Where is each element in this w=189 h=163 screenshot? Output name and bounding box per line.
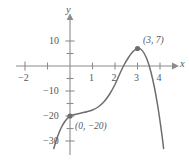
x-axis-label: x	[180, 59, 185, 70]
intercept-point-label: (0, −20)	[75, 122, 107, 132]
y-tick-label-neg30: −30	[43, 136, 59, 146]
intercept-point-marker	[67, 113, 72, 118]
peak-point-label: (3, 7)	[143, 36, 164, 46]
x-tick-label-4: 4	[157, 73, 162, 83]
y-axis-label: y	[66, 5, 71, 16]
y-tick-label-10: 10	[49, 36, 59, 46]
peak-point-marker	[135, 46, 140, 51]
x-tick-label-neg2: −2	[18, 73, 29, 83]
y-tick-label-neg20: −20	[43, 111, 59, 121]
x-axis	[16, 63, 179, 70]
graph-figure: y x −2 1 2 3 4 10 −10 −20 −30 (3, 7) (0,…	[0, 0, 189, 163]
x-tick-label-3: 3	[134, 73, 139, 83]
x-tick-label-1: 1	[89, 73, 94, 83]
y-axis	[67, 14, 74, 156]
y-tick-label-neg10: −10	[43, 86, 59, 96]
x-tick-label-2: 2	[112, 73, 117, 83]
